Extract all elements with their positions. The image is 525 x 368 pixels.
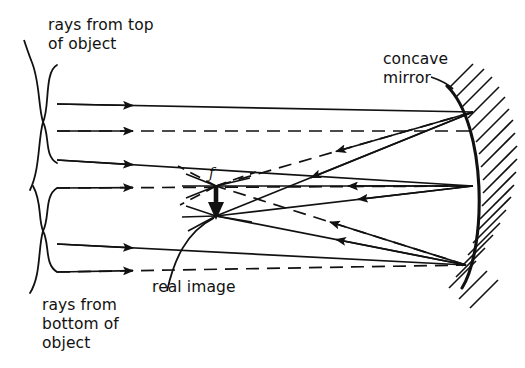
- rays-from-top-group: [57, 104, 473, 186]
- incident-ray-bottom-middle-arrow: [57, 244, 133, 248]
- reflected-ray-a-arrow: [311, 112, 473, 178]
- incident-ray-bottom-lower-arrow: [57, 271, 133, 272]
- incident-ray-top-lower-arrow: [57, 160, 133, 165]
- rays-from-bottom-label: rays from bottom of object: [42, 296, 119, 353]
- construction-dash-upper-right: [216, 172, 256, 186]
- reflected-rays-group: [178, 112, 473, 265]
- brace-top: [30, 60, 57, 190]
- reflected-ray-d-arrow: [358, 186, 473, 199]
- concave-mirror-ray-diagram: rays from top of object rays from bottom…: [0, 0, 525, 368]
- real-image-label: real image: [152, 278, 236, 297]
- focal-point-label: f: [209, 166, 214, 180]
- rays-from-bottom-group: [57, 186, 473, 272]
- rays-from-top-leader: [24, 40, 31, 60]
- diverging-ray-bottom-left-b: [182, 216, 216, 217]
- brace-bottom: [30, 186, 57, 293]
- rays-from-top-label: rays from top of object: [48, 16, 154, 54]
- concave-mirror-label: concave mirror: [383, 50, 448, 88]
- incident-ray-top-upper-arrow: [57, 104, 133, 106]
- diverging-ray-bottom-right: [216, 216, 252, 222]
